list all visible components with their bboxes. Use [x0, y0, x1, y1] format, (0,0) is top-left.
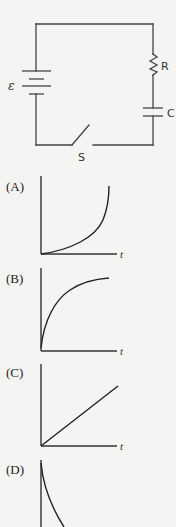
option-c-t-label: t: [120, 440, 124, 452]
option-b-graph: (B) t: [6, 268, 124, 357]
option-d-label: (D): [6, 462, 24, 477]
option-a-curve: [41, 186, 109, 254]
option-c-graph: (C) t: [6, 364, 124, 452]
capacitor-icon: [143, 108, 163, 116]
option-d-graph: (D): [6, 460, 64, 527]
option-c-curve: [41, 386, 118, 446]
option-a-label: (A): [6, 179, 24, 194]
option-c-label: (C): [6, 365, 23, 380]
capacitor-label: C: [167, 107, 175, 120]
option-a-graph: (A) t: [6, 176, 124, 260]
option-b-t-label: t: [120, 345, 124, 357]
switch-icon: [72, 125, 89, 145]
question-figure: ε R C S (A) t (B) t: [0, 0, 176, 527]
resistor-label: R: [161, 60, 169, 73]
battery-icon: [22, 71, 51, 94]
emf-label: ε: [8, 79, 14, 93]
option-b-curve: [41, 278, 109, 348]
option-b-label: (B): [6, 271, 23, 286]
option-d-curve: [41, 463, 64, 527]
switch-label: S: [78, 151, 85, 164]
option-a-t-label: t: [120, 248, 124, 260]
resistor-icon: [150, 54, 157, 75]
rc-circuit: ε R C S: [8, 24, 175, 164]
